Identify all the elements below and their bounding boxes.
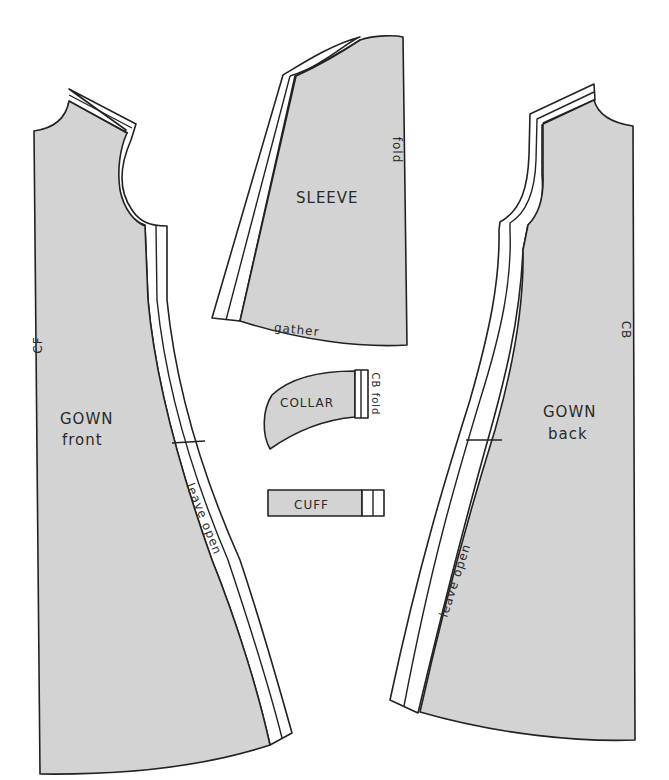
gown-back-cb-label: CB xyxy=(619,321,633,340)
gown-front-subtitle: front xyxy=(62,431,103,449)
collar-title: COLLAR xyxy=(280,396,334,410)
gown-front-cf-label: CF xyxy=(31,336,45,353)
cuff-title: CUFF xyxy=(294,498,329,512)
gown-back-piece xyxy=(390,84,635,740)
pattern-diagram: CF GOWN front leave open SLEEVE fold gat… xyxy=(0,0,669,780)
gown-back-title: GOWN xyxy=(543,403,596,421)
sleeve-fold-label: fold xyxy=(390,137,404,164)
sleeve-title: SLEEVE xyxy=(296,189,359,207)
gown-back-subtitle: back xyxy=(548,425,588,443)
gown-front-title: GOWN xyxy=(60,410,113,428)
collar-cb-fold-label: CB fold xyxy=(370,373,381,416)
